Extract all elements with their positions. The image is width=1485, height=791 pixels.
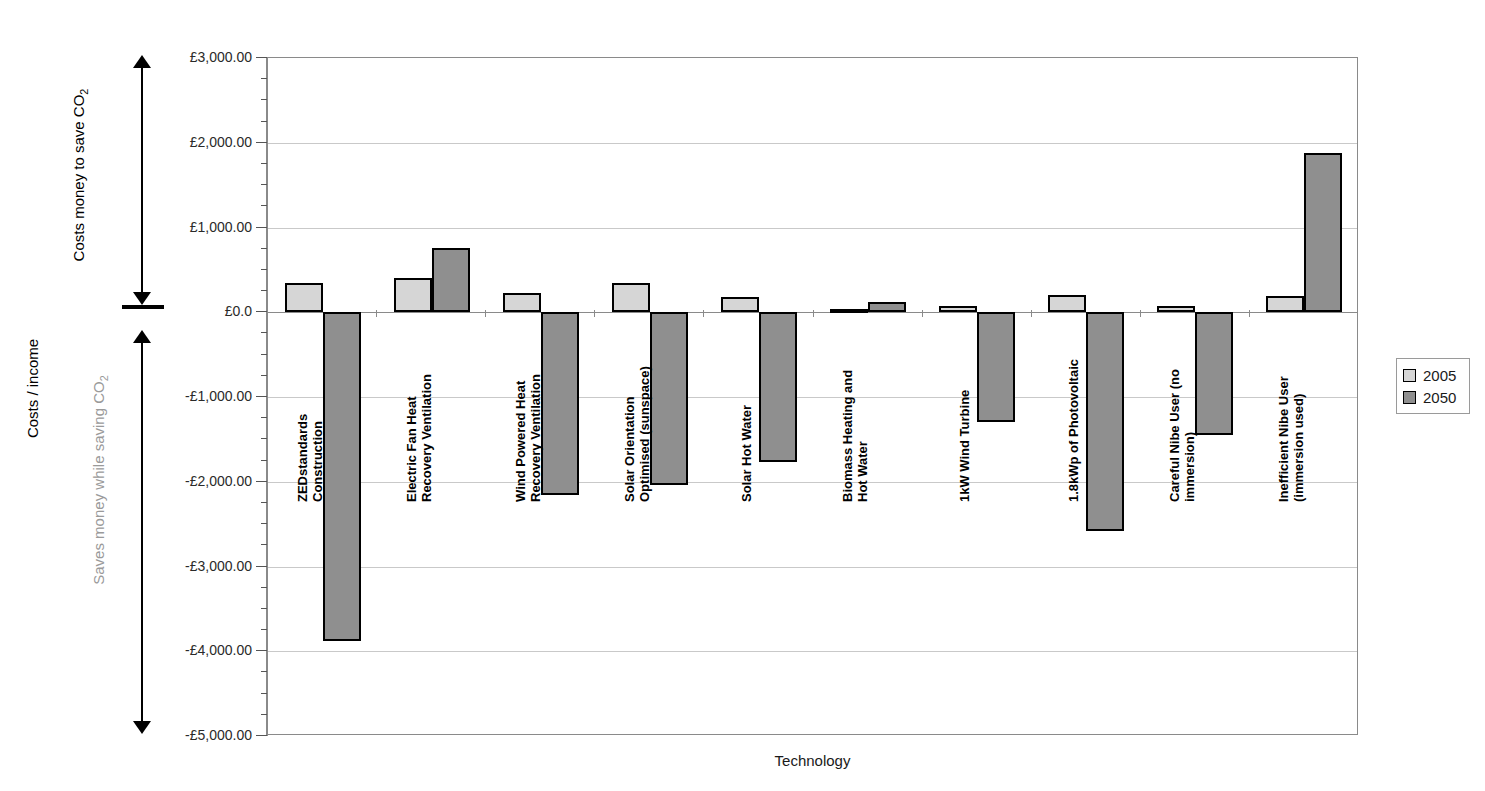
y-axis-tick-label: £3,000.00: [142, 49, 252, 65]
y-axis-minor-tick: [261, 714, 267, 715]
x-axis-title: Technology: [267, 752, 1358, 769]
legend-swatch: [1403, 369, 1416, 382]
y-axis-tick: [256, 311, 267, 312]
gridline: [268, 651, 1357, 652]
y-axis-minor-tick: [261, 438, 267, 439]
y-axis-tick: [256, 227, 267, 228]
bar-2005: [939, 306, 977, 312]
category-label: Solar OrientationOptimised (sunspace): [622, 317, 652, 502]
y-axis-minor-tick: [261, 502, 267, 503]
y-axis-minor-tick: [261, 99, 267, 100]
category-label: ZEDstandardsConstruction: [295, 317, 325, 502]
y-axis-minor-tick: [261, 354, 267, 355]
y-axis-tick-label: £1,000.00: [142, 219, 252, 235]
bar-2050: [868, 302, 906, 312]
y-axis-tick-label: -£4,000.00: [142, 642, 252, 658]
gridline: [268, 567, 1357, 568]
bar-2050: [541, 312, 579, 495]
y-axis-tick: [256, 566, 267, 567]
category-label: Wind Powered HeatRecovery Ventilation: [513, 317, 543, 502]
y-axis-minor-tick: [261, 544, 267, 545]
x-axis-tick: [1140, 310, 1141, 317]
y-axis-minor-tick: [261, 417, 267, 418]
y-axis-tick: [256, 735, 267, 736]
y-axis-tick-label: -£1,000.00: [142, 388, 252, 404]
y-axis-minor-tick: [261, 375, 267, 376]
y-axis-tick-label: -£2,000.00: [142, 473, 252, 489]
bar-2050: [432, 248, 470, 312]
y-axis-tick-label: -£5,000.00: [142, 727, 252, 743]
gridline: [268, 143, 1357, 144]
legend: 20052050: [1396, 358, 1470, 414]
y-axis-tick-label: £2,000.00: [142, 134, 252, 150]
y-axis-minor-tick: [261, 290, 267, 291]
bar-2005: [285, 283, 323, 312]
y-axis-minor-tick: [261, 248, 267, 249]
category-label: 1kW Wind Turbine: [957, 317, 972, 502]
plot-area: ZEDstandardsConstructionElectric Fan Hea…: [267, 57, 1358, 735]
category-label: 1.8kWp of Photovoltaic: [1066, 317, 1081, 502]
y-axis-minor-tick: [261, 608, 267, 609]
y-axis-labels: £3,000.00£2,000.00£1,000.00£0.0-£1,000.0…: [140, 57, 252, 735]
bar-2005: [503, 293, 541, 312]
y-axis-minor-tick: [261, 269, 267, 270]
legend-label: 2005: [1423, 367, 1456, 384]
bar-2005: [394, 278, 432, 313]
bar-2050: [759, 312, 797, 462]
gridline: [268, 228, 1357, 229]
y-axis-tick: [256, 650, 267, 651]
bar-2050: [1086, 312, 1124, 531]
bar-2005: [1157, 306, 1195, 312]
y-axis-minor-tick: [261, 587, 267, 588]
category-label: Electric Fan HeatRecovery Ventilation: [404, 317, 434, 502]
bar-2050: [323, 312, 361, 641]
annotation-costs-money: Costs money to save CO2: [70, 60, 90, 290]
y-axis-tick-label: -£3,000.00: [142, 558, 252, 574]
y-axis-tick-label: £0.0: [142, 303, 252, 319]
chart-root: Costs / income Costs money to save CO2 S…: [0, 0, 1485, 791]
annotation-saves-money: Saves money while saving CO2: [90, 350, 110, 610]
bar-2050: [650, 312, 688, 485]
bar-2005: [1048, 295, 1086, 312]
bar-2050: [1304, 153, 1342, 312]
x-axis-tick: [485, 310, 486, 317]
bar-2050: [977, 312, 1015, 422]
bar-2050: [1195, 312, 1233, 435]
y-axis-tick: [256, 142, 267, 143]
x-axis-tick: [1031, 310, 1032, 317]
legend-swatch: [1403, 391, 1416, 404]
category-label: Careful Nibe User (noimmersion): [1167, 317, 1197, 502]
y-axis-minor-tick: [261, 78, 267, 79]
y-axis-minor-tick: [261, 460, 267, 461]
x-axis-tick: [1249, 310, 1250, 317]
x-axis-tick: [376, 310, 377, 317]
x-axis-tick: [922, 310, 923, 317]
legend-item-2050: 2050: [1403, 386, 1463, 408]
category-label: Biomass Heating andHot Water: [840, 317, 870, 502]
category-label: Solar Hot Water: [739, 317, 754, 502]
y-axis-title: Costs / income: [24, 319, 41, 459]
x-axis-tick: [813, 310, 814, 317]
y-axis-tick: [256, 481, 267, 482]
x-axis-tick: [703, 310, 704, 317]
y-axis-minor-tick: [261, 121, 267, 122]
y-axis-minor-tick: [261, 205, 267, 206]
y-axis-minor-tick: [261, 693, 267, 694]
x-axis-tick: [594, 310, 595, 317]
y-axis-tick: [256, 57, 267, 58]
y-axis-minor-tick: [261, 184, 267, 185]
y-axis-minor-tick: [261, 523, 267, 524]
y-axis-minor-tick: [261, 629, 267, 630]
clipped-header-text: [1100, 0, 1460, 8]
category-label: Inefficient Nibe User(immersion used): [1276, 317, 1306, 502]
legend-label: 2050: [1423, 389, 1456, 406]
legend-item-2005: 2005: [1403, 364, 1463, 386]
y-axis-minor-tick: [261, 332, 267, 333]
y-axis-minor-tick: [261, 671, 267, 672]
bar-2005: [612, 283, 650, 312]
bar-2005: [721, 297, 759, 312]
bar-2005: [1266, 296, 1304, 312]
y-axis-tick: [256, 396, 267, 397]
y-axis-minor-tick: [261, 163, 267, 164]
bar-2005: [830, 309, 868, 313]
